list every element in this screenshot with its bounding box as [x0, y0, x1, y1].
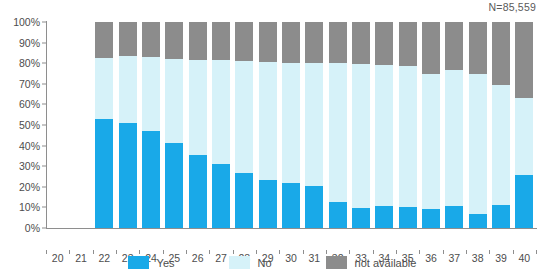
- bar-segment-not-available[interactable]: [212, 22, 230, 60]
- bar-segment-no[interactable]: [189, 60, 207, 155]
- bar-24[interactable]: [142, 22, 160, 228]
- bar-segment-yes[interactable]: [259, 180, 277, 228]
- bar-segment-not-available[interactable]: [259, 22, 277, 62]
- bar-segment-no[interactable]: [142, 57, 160, 131]
- y-axis-tick-label: 60%: [0, 98, 46, 110]
- bar-31[interactable]: [305, 22, 323, 228]
- bar-segment-not-available[interactable]: [189, 22, 207, 60]
- bar-segment-no[interactable]: [95, 58, 113, 119]
- bar-segment-yes[interactable]: [119, 123, 137, 228]
- bar-segment-yes[interactable]: [189, 155, 207, 228]
- bar-segment-yes[interactable]: [399, 207, 417, 228]
- legend-item-yes[interactable]: Yes: [128, 256, 175, 269]
- bar-35[interactable]: [399, 22, 417, 228]
- bar-segment-no[interactable]: [212, 60, 230, 164]
- y-axis-tick-mark: [42, 145, 46, 146]
- bar-segment-yes[interactable]: [142, 131, 160, 228]
- bar-segment-yes[interactable]: [165, 143, 183, 228]
- bar-segment-yes[interactable]: [515, 175, 533, 228]
- legend-item-not-available[interactable]: not available: [326, 256, 417, 269]
- bar-segment-not-available[interactable]: [165, 22, 183, 59]
- bar-segment-not-available[interactable]: [352, 22, 370, 64]
- bar-30[interactable]: [282, 22, 300, 228]
- chart-legend: YesNonot available: [0, 256, 544, 269]
- bar-segment-no[interactable]: [492, 85, 510, 206]
- bar-23[interactable]: [119, 22, 137, 228]
- y-axis-tick-mark: [42, 186, 46, 187]
- bar-segment-not-available[interactable]: [422, 22, 440, 74]
- y-axis-tick-mark: [42, 63, 46, 64]
- bar-segment-no[interactable]: [445, 70, 463, 206]
- bar-segment-no[interactable]: [422, 74, 440, 210]
- y-axis-tick-label: 10%: [0, 201, 46, 213]
- bar-segment-not-available[interactable]: [282, 22, 300, 63]
- y-axis-tick-mark: [42, 22, 46, 23]
- bar-segment-yes[interactable]: [212, 164, 230, 228]
- bar-34[interactable]: [375, 22, 393, 228]
- bar-37[interactable]: [445, 22, 463, 228]
- bar-25[interactable]: [165, 22, 183, 228]
- bar-segment-yes[interactable]: [235, 173, 253, 228]
- bar-segment-no[interactable]: [259, 62, 277, 179]
- bar-segment-no[interactable]: [165, 59, 183, 142]
- bar-segment-yes[interactable]: [282, 183, 300, 228]
- legend-swatch-icon: [128, 256, 149, 269]
- legend-label: Yes: [157, 257, 175, 269]
- bar-40[interactable]: [515, 22, 533, 228]
- y-axis-tick-mark: [42, 207, 46, 208]
- bar-22[interactable]: [95, 22, 113, 228]
- legend-item-no[interactable]: No: [229, 256, 272, 269]
- bar-segment-no[interactable]: [235, 61, 253, 173]
- bar-segment-no[interactable]: [305, 63, 323, 186]
- y-axis-tick-label: 70%: [0, 78, 46, 90]
- bar-segment-no[interactable]: [469, 74, 487, 214]
- bar-segment-yes[interactable]: [469, 214, 487, 228]
- bar-segment-yes[interactable]: [329, 202, 347, 228]
- bar-segment-not-available[interactable]: [142, 22, 160, 57]
- bar-segment-not-available[interactable]: [329, 22, 347, 63]
- bar-segment-not-available[interactable]: [119, 22, 137, 56]
- legend-swatch-icon: [326, 256, 347, 269]
- bar-segment-no[interactable]: [515, 98, 533, 175]
- bar-segment-yes[interactable]: [375, 206, 393, 228]
- bar-28[interactable]: [235, 22, 253, 228]
- bar-32[interactable]: [329, 22, 347, 228]
- bar-26[interactable]: [189, 22, 207, 228]
- bar-segment-no[interactable]: [329, 63, 347, 202]
- x-axis-tick-mark: [536, 250, 537, 254]
- y-axis-tick-label: 20%: [0, 181, 46, 193]
- y-axis-tick-mark: [42, 166, 46, 167]
- bar-segment-not-available[interactable]: [399, 22, 417, 66]
- legend-label: not available: [355, 257, 417, 269]
- bar-segment-not-available[interactable]: [235, 22, 253, 61]
- bar-segment-no[interactable]: [375, 65, 393, 206]
- bar-segment-yes[interactable]: [352, 208, 370, 228]
- bar-segment-not-available[interactable]: [492, 22, 510, 85]
- bar-segment-not-available[interactable]: [305, 22, 323, 63]
- bar-segment-no[interactable]: [399, 66, 417, 207]
- y-axis-tick-mark: [42, 42, 46, 43]
- bar-segment-not-available[interactable]: [375, 22, 393, 65]
- bar-segment-yes[interactable]: [95, 119, 113, 228]
- bar-segment-not-available[interactable]: [95, 22, 113, 58]
- y-axis-tick-label: 50%: [0, 119, 46, 131]
- bar-segment-yes[interactable]: [305, 186, 323, 228]
- bar-segment-yes[interactable]: [492, 205, 510, 228]
- stacked-bar-chart: N=85,559 0%10%20%30%40%50%60%70%80%90%10…: [0, 0, 544, 278]
- y-axis-tick-label: 0%: [0, 222, 46, 234]
- x-axis-line: [46, 228, 537, 229]
- bar-segment-no[interactable]: [352, 64, 370, 208]
- bar-segment-yes[interactable]: [422, 209, 440, 228]
- bar-segment-not-available[interactable]: [469, 22, 487, 74]
- bar-38[interactable]: [469, 22, 487, 228]
- bar-33[interactable]: [352, 22, 370, 228]
- bar-segment-yes[interactable]: [445, 206, 463, 228]
- bar-39[interactable]: [492, 22, 510, 228]
- bar-segment-no[interactable]: [119, 56, 137, 123]
- bar-29[interactable]: [259, 22, 277, 228]
- bar-36[interactable]: [422, 22, 440, 228]
- bar-segment-not-available[interactable]: [515, 22, 533, 98]
- bar-27[interactable]: [212, 22, 230, 228]
- bar-segment-not-available[interactable]: [445, 22, 463, 70]
- bar-segment-no[interactable]: [282, 63, 300, 182]
